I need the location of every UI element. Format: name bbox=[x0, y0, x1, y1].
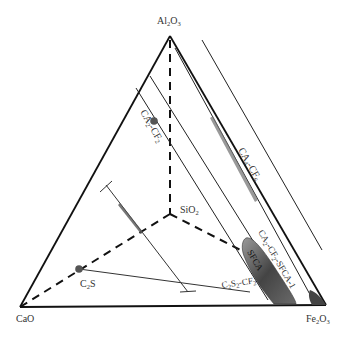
ca4-cf6-label: CA4-CF6 bbox=[235, 146, 264, 184]
c2s-tie-band bbox=[118, 203, 143, 234]
c2s-point bbox=[75, 265, 83, 273]
fe2o3-corner-region bbox=[309, 290, 326, 305]
sio2-label: SiO2 bbox=[180, 204, 199, 216]
fe2o3-label: Fe2O3 bbox=[306, 313, 330, 325]
tetrahedral-diagram: Al2O3 CaO Fe2O3 SiO2 CA2-CF2 CA4-CF6 CA2… bbox=[0, 0, 341, 338]
hidden-edges bbox=[20, 40, 260, 307]
c2s-label: C2S bbox=[80, 278, 95, 290]
ca2-cf2-label: CA2-CF2 bbox=[137, 108, 165, 145]
c2s-tie-line bbox=[79, 181, 250, 292]
ca4-cf6-band bbox=[210, 116, 258, 202]
c2s2-cf2-label: C2S2-CF2 bbox=[221, 275, 257, 291]
cao-label: CaO bbox=[16, 313, 34, 324]
al2o3-label: Al2O3 bbox=[157, 15, 181, 27]
